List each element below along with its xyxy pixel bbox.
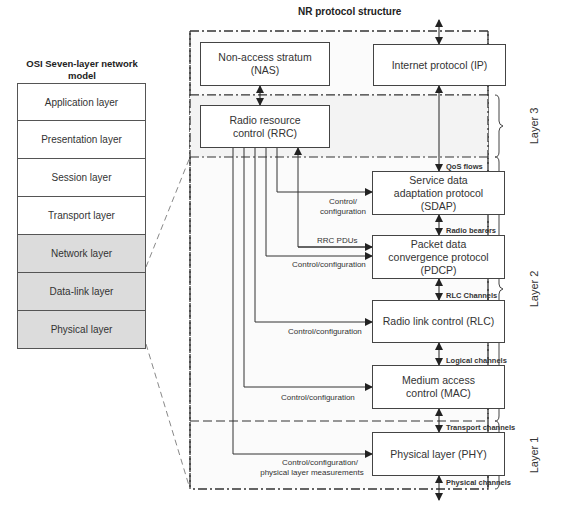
rlc-channels-label: RLC Channels xyxy=(446,291,497,300)
transport-channels-label: Transport channels xyxy=(446,423,515,432)
osi-application-layer: Application layer xyxy=(17,83,146,121)
osi-network-layer: Network layer xyxy=(17,235,146,273)
nas-box: Non-access stratum (NAS) xyxy=(200,42,330,86)
rlc-control-label: Control/configuration xyxy=(288,327,362,337)
nr-structure-title: NR protocol structure xyxy=(298,6,401,17)
osi-presentation-layer: Presentation layer xyxy=(17,121,146,159)
logical-channels-label: Logical channels xyxy=(446,356,507,365)
layer-3-label: Layer 3 xyxy=(528,108,540,145)
rlc-box: Radio link control (RLC) xyxy=(372,300,505,343)
layer-2-label: Layer 2 xyxy=(528,271,540,308)
mac-box: Medium access control (MAC) xyxy=(372,365,505,409)
osi-data-link-layer: Data-link layer xyxy=(17,273,146,311)
pdcp-control-label: Control/configuration xyxy=(292,260,366,270)
phy-box: Physical layer (PHY) xyxy=(372,432,505,476)
phy-control-label-1: Control/configuration/ xyxy=(270,458,370,468)
mac-control-label: Control/configuration xyxy=(281,393,355,403)
rrc-pdus-label: RRC PDUs xyxy=(317,236,357,246)
ip-box: Internet protocol (IP) xyxy=(373,44,506,86)
radio-bearers-label: Radio bearers xyxy=(446,226,496,235)
sdap-control-label: Control/ configuration xyxy=(318,197,368,217)
osi-model-title: OSI Seven-layer network model xyxy=(16,58,148,82)
rrc-box: Radio resource control (RRC) xyxy=(200,105,330,148)
osi-physical-layer: Physical layer xyxy=(17,311,146,349)
sdap-box: Service data adaptation protocol (SDAP) xyxy=(372,171,505,215)
osi-session-layer: Session layer xyxy=(17,159,146,197)
pdcp-box: Packet data convergence protocol (PDCP) xyxy=(372,235,505,279)
phy-control-label-2: physical layer measurements xyxy=(252,468,372,478)
qos-flows-label: QoS flows xyxy=(446,162,483,171)
layer-1-label: Layer 1 xyxy=(528,437,540,474)
physical-channels-label: Physical channels xyxy=(446,478,511,487)
osi-transport-layer: Transport layer xyxy=(17,197,146,235)
